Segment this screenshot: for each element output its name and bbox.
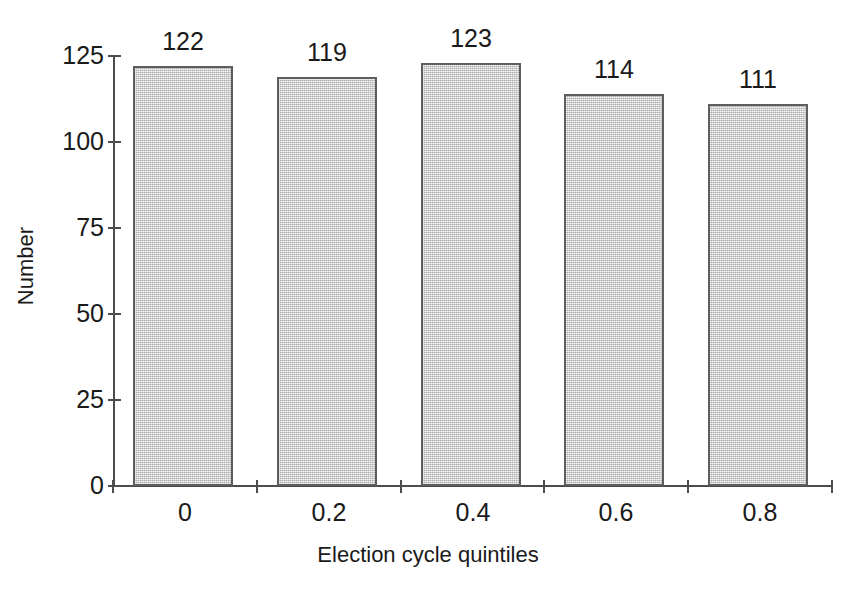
x-axis-tick	[112, 480, 114, 493]
bar-value-label: 122	[103, 29, 263, 54]
y-axis-tick	[108, 141, 121, 143]
x-axis-tick	[831, 480, 833, 493]
x-axis-title: Election cycle quintiles	[0, 544, 856, 566]
x-axis-tick-label: 0.2	[257, 500, 401, 525]
x-axis-tick-label: 0.4	[401, 500, 545, 525]
x-axis-tick-label: 0.8	[688, 500, 832, 525]
bar	[708, 104, 808, 486]
bar-value-label: 114	[534, 57, 694, 82]
x-axis-tick	[256, 480, 258, 493]
y-axis-tick	[108, 485, 121, 487]
bar	[421, 63, 521, 486]
x-axis-tick	[400, 480, 402, 493]
bar	[564, 94, 664, 486]
x-axis-tick	[687, 480, 689, 493]
bar	[133, 66, 233, 486]
bar-chart: 0255075100125 122119123114111 00.20.40.6…	[0, 0, 856, 591]
y-axis-title: Number	[15, 216, 37, 316]
y-axis-tick-label: 100	[62, 129, 104, 154]
y-axis-tick-label: 50	[76, 301, 104, 326]
y-axis-tick-label: 25	[76, 387, 104, 412]
x-axis-tick-label: 0	[113, 500, 257, 525]
y-axis-tick	[108, 313, 121, 315]
bar	[277, 77, 377, 486]
y-axis-tick-label: 0	[90, 473, 104, 498]
x-axis-tick-label: 0.6	[544, 500, 688, 525]
bar-value-label: 119	[247, 40, 407, 65]
bar-value-label: 123	[391, 26, 551, 51]
y-axis-tick	[108, 399, 121, 401]
y-axis-tick-label: 125	[62, 43, 104, 68]
y-axis-tick-label: 75	[76, 215, 104, 240]
bar-value-label: 111	[678, 67, 838, 92]
y-axis-line	[113, 56, 115, 487]
y-axis-tick	[108, 55, 121, 57]
y-axis-tick	[108, 227, 121, 229]
x-axis-tick	[543, 480, 545, 493]
